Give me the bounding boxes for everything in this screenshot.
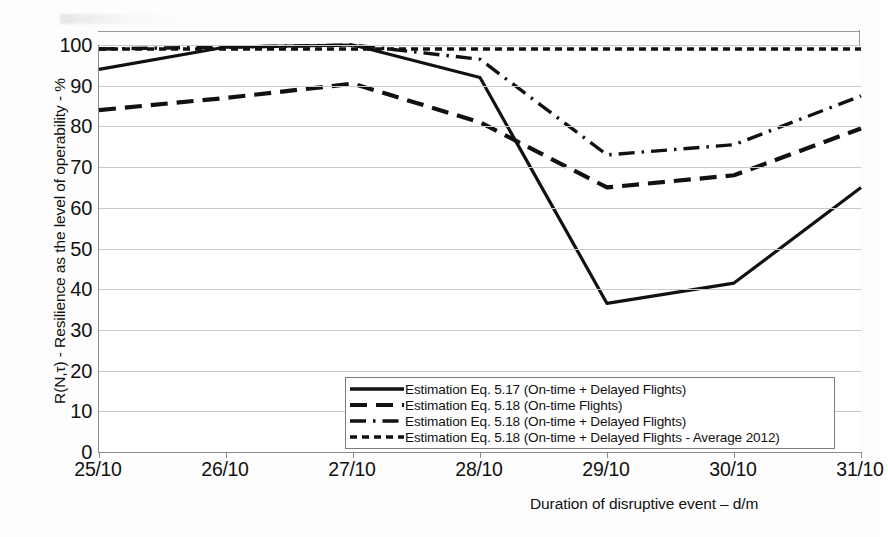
y-axis-tick-label: 90 bbox=[48, 74, 92, 97]
series-line-2 bbox=[99, 84, 861, 188]
y-axis-tick-label: 100 bbox=[48, 34, 92, 57]
y-axis-tick-label: 80 bbox=[48, 115, 92, 138]
legend-item[interactable]: Estimation Eq. 5.18 (On-time + Delayed F… bbox=[349, 429, 830, 445]
x-axis-tick-label: 25/10 bbox=[43, 458, 153, 481]
gridline bbox=[99, 289, 861, 290]
y-axis-tick-label: 50 bbox=[48, 237, 92, 260]
legend-label: Estimation Eq. 5.17 (On-time + Delayed F… bbox=[405, 382, 686, 397]
legend-line-sample-icon bbox=[349, 398, 405, 412]
y-axis-tick-label: 30 bbox=[48, 318, 92, 341]
legend-item[interactable]: Estimation Eq. 5.17 (On-time + Delayed F… bbox=[349, 381, 830, 397]
x-axis-tick-label: 26/10 bbox=[170, 458, 280, 481]
legend-line-sample-icon bbox=[349, 430, 405, 444]
legend-label: Estimation Eq. 5.18 (On-time + Delayed F… bbox=[405, 414, 686, 429]
y-axis-tick-labels: 0102030405060708090100 bbox=[40, 0, 92, 537]
y-axis-tick-label: 70 bbox=[48, 156, 92, 179]
legend-item[interactable]: Estimation Eq. 5.18 (On-time + Delayed F… bbox=[349, 413, 830, 429]
gridline bbox=[99, 126, 861, 127]
gridline bbox=[99, 330, 861, 331]
gridline bbox=[99, 371, 861, 372]
gridline bbox=[99, 45, 861, 46]
gridline bbox=[99, 208, 861, 209]
plot-top-border bbox=[98, 31, 860, 32]
chart-legend: Estimation Eq. 5.17 (On-time + Delayed F… bbox=[345, 377, 835, 449]
y-axis-tick-label: 60 bbox=[48, 196, 92, 219]
y-axis-tick-label: 40 bbox=[48, 278, 92, 301]
legend-label: Estimation Eq. 5.18 (On-time Flights) bbox=[405, 398, 622, 413]
legend-label: Estimation Eq. 5.18 (On-time + Delayed F… bbox=[405, 430, 780, 445]
y-axis-tick-label: 10 bbox=[48, 400, 92, 423]
gridline bbox=[99, 249, 861, 250]
gridline bbox=[99, 86, 861, 87]
x-axis-tick-label: 30/10 bbox=[678, 458, 788, 481]
x-axis-tick-label: 31/10 bbox=[805, 458, 888, 481]
x-axis-tick-labels: 25/1026/1027/1028/1029/1030/1031/10 bbox=[98, 458, 860, 488]
x-axis-tick-label: 29/10 bbox=[551, 458, 661, 481]
series-line-1 bbox=[99, 45, 861, 303]
legend-line-sample-icon bbox=[349, 382, 405, 396]
x-axis-title: Duration of disruptive event – d/m bbox=[530, 495, 758, 513]
x-axis-tick-label: 28/10 bbox=[424, 458, 534, 481]
legend-item[interactable]: Estimation Eq. 5.18 (On-time Flights) bbox=[349, 397, 830, 413]
gridline bbox=[99, 167, 861, 168]
x-axis-tick-label: 27/10 bbox=[297, 458, 407, 481]
legend-line-sample-icon bbox=[349, 414, 405, 428]
y-axis-tick-label: 20 bbox=[48, 359, 92, 382]
